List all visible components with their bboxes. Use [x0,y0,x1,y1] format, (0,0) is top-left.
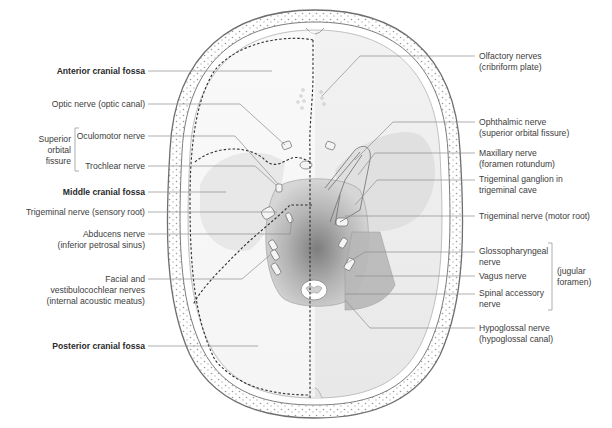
label-accessory-1: Spinal accessory [479,288,544,299]
label-maxillary-1: Maxillary nerve [479,148,537,159]
label-trigeminal-motor-root: Trigeminal nerve (motor root) [479,211,590,222]
label-facial-3: (internal acoustic meatus) [47,296,145,307]
label-ophthalmic-1: Ophthalmic nerve [479,117,546,128]
label-vagus-nerve: Vagus nerve [479,271,527,282]
label-olfactory-2: (cribriform plate) [479,62,542,73]
label-glossopharyngeal-2: nerve [479,257,501,268]
label-posterior-cranial-fossa: Posterior cranial fossa [52,341,145,352]
label-sof-3: fissure [46,156,71,167]
label-facial-1: Facial and [105,274,145,285]
label-middle-cranial-fossa: Middle cranial fossa [63,187,145,198]
label-trochlear-nerve: Trochlear nerve [85,161,145,172]
label-oculomotor-nerve: Oculomotor nerve [77,131,145,142]
label-ophthalmic-2: (superior orbital fissure) [479,128,569,139]
foramen-magnum [301,280,327,300]
label-jugular-1: (jugular [557,266,586,277]
label-hypoglossal-1: Hypoglossal nerve [479,323,550,334]
label-anterior-cranial-fossa: Anterior cranial fossa [57,66,145,77]
label-optic-nerve: Optic nerve (optic canal) [52,99,145,110]
label-sof-1: Superior [39,134,71,145]
label-jugular-2: foramen) [557,277,591,288]
label-abducens-1: Abducens nerve [83,229,145,240]
label-sof-2: orbital [48,145,71,156]
label-glossopharyngeal-1: Glossopharyngeal [479,246,548,257]
label-maxillary-2: (foramen rotundum) [479,159,555,170]
label-facial-2: vestibulocochlear nerves [50,285,145,296]
label-abducens-2: (inferior petrosal sinus) [58,240,145,251]
label-trigeminal-sensory-root: Trigeminal nerve (sensory root) [26,207,145,218]
label-ganglion-1: Trigeminal ganglion in [479,174,563,185]
label-olfactory-1: Olfactory nerves [479,51,542,62]
label-ganglion-2: trigeminal cave [479,185,537,196]
label-hypoglossal-2: (hypoglossal canal) [479,334,553,345]
label-accessory-2: nerve [479,299,501,310]
